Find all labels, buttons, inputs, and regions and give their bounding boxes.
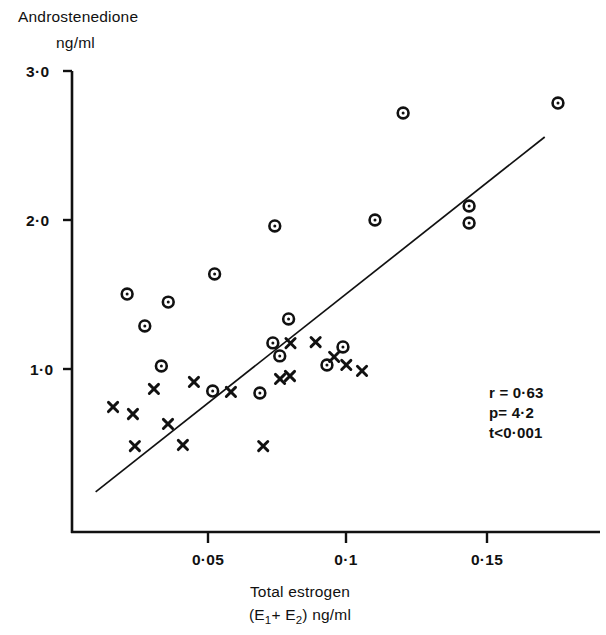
data-point-cross [285,371,294,380]
y-tick-label-1: 1·0 [30,361,53,378]
data-point-cross [163,419,172,428]
data-point-cross [128,409,137,418]
x-tick-label-005: 0·05 [192,551,224,568]
data-point-circle-centre [143,324,146,327]
data-point-circle-centre [468,204,471,207]
x-axis-title-line1: Total estrogen [250,583,350,600]
regression-line [96,137,545,492]
data-point-circle-centre [341,345,344,348]
data-point-cross [178,440,187,449]
data-point-cross [226,387,235,396]
data-point-circle-centre [402,112,405,115]
data-point-cross [342,360,351,369]
stat-annotation-p: p= 4·2 [489,404,534,421]
x-tick-label-015: 0·15 [471,551,503,568]
data-point-circle-centre [213,272,216,275]
x-axis-title-part-plus: + E [271,606,295,623]
data-point-circle-centre [468,221,471,224]
data-point-circle-centre [211,390,214,393]
x-tick-label-01: 0·1 [334,551,357,568]
y-axis-title-line1: Androstenedione [18,8,138,25]
x-axis-title-part-open: (E [249,606,265,623]
data-point-cross [286,338,295,347]
plot-canvas: Androstenedione ng/ml 3·0 2·0 1·0 0·05 0… [0,0,606,635]
data-point-circle-centre [167,301,170,304]
x-axis-title-part-units: ) ng/ml [302,606,351,623]
data-point-cross [311,337,320,346]
y-axis-title-line2: ng/ml [56,34,95,51]
scatter-plot-figure: Androstenedione ng/ml 3·0 2·0 1·0 0·05 0… [0,0,606,635]
data-point-cross [330,352,339,361]
data-point-circle-centre [126,293,129,296]
data-point-circle-centre [271,341,274,344]
data-point-cross [357,366,366,375]
series-circle-group [122,98,564,399]
data-point-circle-centre [287,317,290,320]
data-point-cross [130,441,139,450]
data-point-circle-centre [273,224,276,227]
data-point-cross [189,377,198,386]
data-point-cross [108,402,117,411]
data-point-cross [149,384,158,393]
data-point-circle-centre [258,391,261,394]
data-point-circle-centre [278,354,281,357]
stat-annotation-t: t<0·001 [489,424,543,441]
data-point-cross [259,441,268,450]
data-point-cross [275,374,284,383]
data-point-circle-centre [325,363,328,366]
data-point-circle-centre [556,102,559,105]
y-tick-label-3: 3·0 [26,63,49,80]
y-tick-label-2: 2·0 [26,212,49,229]
data-point-circle-centre [373,219,376,222]
stat-annotation-r: r = 0·63 [489,384,544,401]
series-cross-group [108,337,366,450]
x-axis-title-line2: (E1+ E2) ng/ml [249,606,351,626]
data-point-circle-centre [160,365,163,368]
